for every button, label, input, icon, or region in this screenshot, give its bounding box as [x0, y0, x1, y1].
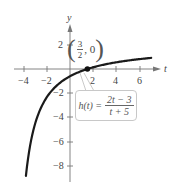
y-tick-label: −6 [53, 136, 64, 147]
callout-lhs: h(t) = [78, 100, 102, 111]
x-tick-label: 4 [113, 75, 118, 86]
point-label-fraction: 3 2 [77, 39, 84, 60]
open-paren: ( [67, 36, 76, 62]
y-tick-label: 2 [58, 39, 63, 50]
function-callout: h(t) = 2t − 3 t + 5 [75, 90, 137, 121]
y-axis-label: y [66, 12, 72, 23]
callout-fraction: 2t − 3 t + 5 [105, 94, 134, 117]
x-axis: −4 −2 2 4 6 t [14, 63, 167, 86]
x-axis-label: t [164, 63, 167, 74]
x-tick-label: 6 [137, 75, 142, 86]
zero-point-marker [85, 66, 91, 72]
fraction-denominator: 2 [78, 50, 83, 60]
y-tick-label: −4 [53, 111, 64, 122]
callout-denominator: t + 5 [108, 106, 132, 117]
x-tick-label: −2 [41, 75, 52, 86]
point-label-rest: , 0 [84, 43, 95, 55]
close-paren: ) [95, 36, 104, 62]
callout-numerator: 2t − 3 [105, 94, 134, 106]
y-tick-label: −8 [53, 160, 64, 171]
x-tick-label: −4 [18, 75, 29, 86]
y-axis-arrow-icon [68, 24, 73, 32]
point-label: ( 3 2 , 0 ) [67, 35, 104, 63]
x-axis-arrow-icon [153, 67, 161, 72]
fraction-numerator: 3 [77, 39, 84, 50]
